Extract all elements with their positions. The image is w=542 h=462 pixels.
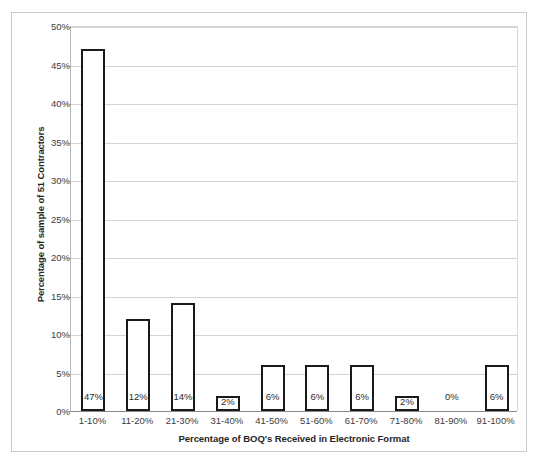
- x-tick-label: 71-80%: [390, 415, 423, 426]
- x-tick-label: 1-10%: [79, 415, 106, 426]
- x-axis-title: Percentage of BOQ's Received in Electron…: [70, 433, 518, 444]
- bar-slot[interactable]: 6%: [295, 27, 340, 411]
- bar-value-label: 47%: [84, 391, 103, 402]
- plot-area: 47%12%14%2%6%6%6%2%0%6%: [70, 26, 518, 411]
- bar-value-label: 6%: [355, 391, 369, 402]
- bar-value-label: 6%: [490, 391, 504, 402]
- x-tick-label: 51-60%: [300, 415, 333, 426]
- bar-value-label: 0%: [445, 391, 459, 402]
- bar-value-label: 6%: [266, 391, 280, 402]
- bar[interactable]: [350, 365, 374, 411]
- y-tick-label: 25%: [24, 213, 70, 224]
- bar[interactable]: [485, 365, 509, 411]
- x-axis-tick-labels: 1-10%11-20%21-30%31-40%41-50%51-60%61-70…: [70, 415, 518, 433]
- y-tickmark-0%: [67, 411, 71, 412]
- x-tick-label: 31-40%: [210, 415, 243, 426]
- bar-value-label: 6%: [311, 391, 325, 402]
- chart-frame: Percentage of sample of 51 Contractors 0…: [11, 12, 527, 452]
- bar-slot[interactable]: 14%: [161, 27, 206, 411]
- x-tick-label: 11-20%: [121, 415, 153, 426]
- bar-slot[interactable]: 12%: [116, 27, 161, 411]
- gridline-0%: [71, 411, 517, 412]
- y-tick-label: 45%: [24, 59, 70, 70]
- y-tick-label: 20%: [24, 252, 70, 263]
- bar-value-label: 2%: [221, 396, 235, 407]
- y-tick-label: 0%: [24, 406, 70, 417]
- bar[interactable]: [305, 365, 329, 411]
- x-tick-label: 21-30%: [166, 415, 199, 426]
- y-tick-label: 10%: [24, 329, 70, 340]
- bar-slot[interactable]: 6%: [250, 27, 295, 411]
- x-tick-label: 81-90%: [434, 415, 467, 426]
- bar-slot[interactable]: 2%: [205, 27, 250, 411]
- bar-slot[interactable]: 47%: [71, 27, 116, 411]
- bar-value-label: 2%: [400, 396, 414, 407]
- bar-slot[interactable]: 6%: [340, 27, 385, 411]
- bars-layer: 47%12%14%2%6%6%6%2%0%6%: [71, 27, 517, 411]
- bar-value-label: 14%: [173, 391, 192, 402]
- cropped-chart-title: [0, 0, 542, 11]
- x-tick-label: 61-70%: [345, 415, 378, 426]
- y-tick-label: 50%: [24, 21, 70, 32]
- x-tick-label: 91-100%: [477, 415, 515, 426]
- bar[interactable]: [81, 49, 105, 411]
- bar-value-label: 12%: [129, 391, 148, 402]
- y-tick-label: 40%: [24, 98, 70, 109]
- y-axis-tick-labels: 0%5%10%15%20%25%30%35%40%45%50%: [24, 13, 70, 453]
- y-tick-label: 5%: [24, 367, 70, 378]
- bar-slot[interactable]: 2%: [385, 27, 430, 411]
- bar-slot[interactable]: 6%: [474, 27, 519, 411]
- y-tick-label: 35%: [24, 136, 70, 147]
- bar[interactable]: [261, 365, 285, 411]
- x-tick-label: 41-50%: [255, 415, 288, 426]
- y-tick-label: 30%: [24, 175, 70, 186]
- bar-slot[interactable]: 0%: [429, 27, 474, 411]
- y-tick-label: 15%: [24, 290, 70, 301]
